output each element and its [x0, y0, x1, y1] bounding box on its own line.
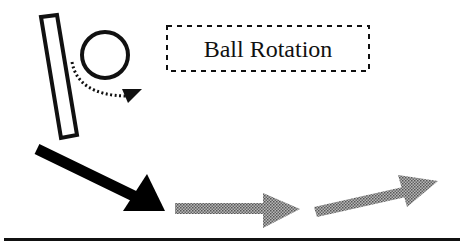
ball	[82, 32, 128, 78]
rotation-arrowhead-icon	[122, 89, 142, 103]
outgoing-arrow-1	[175, 193, 300, 228]
outgoing-arrow-2	[314, 175, 438, 217]
paddle	[41, 15, 77, 138]
label-text: Ball Rotation	[204, 36, 333, 62]
ball-rotation-diagram: Ball Rotation	[0, 0, 463, 244]
incoming-arrow	[37, 149, 165, 211]
bottom-divider	[4, 238, 460, 241]
